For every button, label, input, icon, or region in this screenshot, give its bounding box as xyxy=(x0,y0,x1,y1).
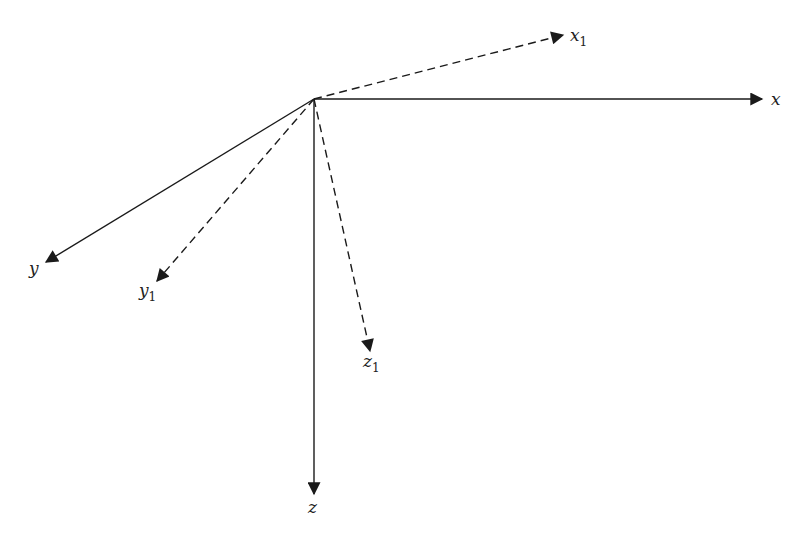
label-y1: y1 xyxy=(138,280,156,304)
axis-y1 xyxy=(157,99,314,281)
axis-x1 xyxy=(314,35,563,99)
coordinate-frames-diagram: x y z x1 y1 z1 xyxy=(0,0,808,537)
axis-y xyxy=(46,99,314,262)
label-y: y xyxy=(28,258,39,278)
label-x: x xyxy=(771,89,781,109)
axis-z1 xyxy=(314,99,370,351)
label-z: z xyxy=(307,497,318,517)
label-x1: x1 xyxy=(570,25,587,49)
label-z1: z1 xyxy=(362,351,380,375)
